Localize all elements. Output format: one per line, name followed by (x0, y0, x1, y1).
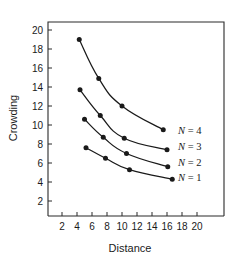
legend-item-3: N = 3 (177, 141, 201, 152)
x-axis-tick-labels: 2468101214161820 (59, 221, 203, 232)
x-tick-label: 12 (131, 221, 143, 232)
data-point-marker (82, 117, 87, 122)
x-tick-label: 18 (176, 221, 188, 232)
y-tick-label: 14 (32, 82, 44, 93)
y-tick-label: 18 (32, 44, 44, 55)
axis-frame (48, 22, 224, 216)
data-point-marker (101, 135, 106, 140)
chart-svg: 2468101214161820 2468101214161820 Crowdi… (0, 0, 241, 263)
y-axis-ticks (48, 30, 52, 201)
data-point-marker (124, 151, 129, 156)
data-point-marker (165, 164, 170, 169)
y-tick-label: 6 (37, 158, 43, 169)
crowding-vs-distance-chart: 2468101214161820 2468101214161820 Crowdi… (0, 0, 241, 263)
x-tick-label: 20 (191, 221, 203, 232)
data-point-marker (77, 37, 82, 42)
series-1 (84, 145, 175, 181)
legend-item-4: N = 4 (177, 125, 202, 136)
data-point-marker (161, 127, 166, 132)
y-tick-label: 4 (37, 177, 43, 188)
y-tick-label: 2 (37, 196, 43, 207)
series-line (85, 119, 168, 167)
series-line (79, 40, 163, 130)
y-tick-label: 12 (32, 101, 44, 112)
y-tick-label: 10 (32, 120, 44, 131)
y-tick-label: 16 (32, 63, 44, 74)
x-tick-label: 2 (59, 221, 65, 232)
data-point-marker (98, 113, 103, 118)
legend-item-2: N = 2 (177, 157, 201, 168)
data-point-marker (103, 156, 108, 161)
chart-legend: N = 4N = 3N = 2N = 1 (177, 125, 202, 183)
data-point-marker (127, 167, 132, 172)
series-3 (78, 87, 170, 152)
data-point-marker (84, 145, 89, 150)
series-4 (77, 37, 166, 132)
data-point-marker (165, 147, 170, 152)
x-tick-label: 14 (146, 221, 158, 232)
x-tick-label: 16 (161, 221, 173, 232)
data-series-layer (77, 37, 175, 182)
x-tick-label: 10 (116, 221, 128, 232)
y-tick-label: 20 (32, 25, 44, 36)
series-line (80, 90, 167, 150)
y-axis-title: Crowding (7, 95, 19, 141)
data-point-marker (120, 104, 125, 109)
legend-item-1: N = 1 (177, 172, 201, 183)
y-axis-tick-labels: 2468101214161820 (32, 25, 44, 207)
data-point-marker (96, 76, 101, 81)
y-tick-label: 8 (37, 139, 43, 150)
plot-frame (48, 22, 224, 216)
x-tick-label: 8 (104, 221, 110, 232)
x-tick-label: 6 (89, 221, 95, 232)
x-axis-title: Distance (109, 242, 152, 254)
series-line (86, 148, 172, 179)
data-point-marker (170, 177, 175, 182)
series-2 (82, 117, 170, 170)
x-axis-ticks (62, 212, 197, 216)
data-point-marker (78, 87, 83, 92)
x-tick-label: 4 (74, 221, 80, 232)
data-point-marker (122, 136, 127, 141)
